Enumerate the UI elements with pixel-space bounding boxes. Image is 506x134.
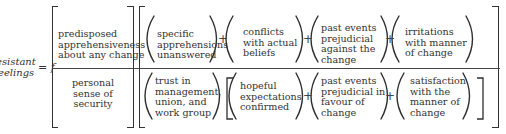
bottom-lead-line1: trust in [155,76,221,87]
plus-1: + [218,32,228,46]
top-term-3-line4: change [321,55,376,66]
paren-open-1 [147,16,154,62]
top-term-4-line3: of change [405,48,467,59]
top-term-3: past events prejudicial against the chan… [321,23,376,65]
bottom-term-2-line1: past events [321,76,385,87]
bottom-term-3: satisfaction with the manner of change [410,76,466,118]
paren-open-b2 [229,73,236,119]
bottom-term-2: past events prejudicial in favour of cha… [321,76,385,118]
top-term-4-line1: irritations [405,27,467,38]
top-term-2: conflicts with actual beliefs [243,27,297,59]
bottom-lead-line4: work group [155,108,221,119]
paren-open-b1 [145,73,152,119]
bottom-term-1-line1: hopeful [240,81,302,92]
bottom-term-3-line1: satisfaction [410,76,466,87]
plus-3: + [385,32,395,46]
bottom-term-3-line4: change [410,108,466,119]
top-term-1-line3: unanswered [157,50,228,61]
plus-2: + [303,32,313,46]
top-term-2-line3: beliefs [243,48,297,59]
bottom-term-1-line3: confirmed [240,102,302,113]
plus-b1: + [303,89,313,103]
plus-b2: + [385,89,395,103]
inner-bracket-right [477,78,483,119]
top-term-2-line1: conflicts [243,27,297,38]
bottom-term-2-line4: change [321,108,385,119]
bottom-lead-term: trust in management, union, and work gro… [155,76,221,118]
top-term-4: irritations with manner of change [405,27,467,59]
bottom-term-1: hopeful expectations confirmed [240,81,302,113]
paren-open-b4 [397,73,404,119]
top-term-3-line1: past events [321,23,376,34]
